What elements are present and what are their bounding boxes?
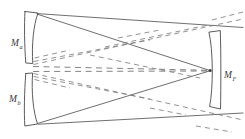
dashed-ray-short-upper-left [35, 50, 71, 58]
mirror-b-label-group: M b [8, 94, 21, 106]
mirror-a-label-subscript: a [20, 43, 23, 50]
dashed-ray-stub-lower-mid [150, 108, 186, 115]
focus-point [209, 69, 212, 72]
dashed-ray-paths [33, 12, 243, 132]
diagram-svg: M a M b M F [0, 0, 245, 139]
dashed-ray-fan-down-2 [34, 77, 150, 100]
solid-ray-lower-outer [38, 113, 243, 124]
mirror-a-body [25, 12, 38, 64]
solid-ray-lower-diagonal [38, 71, 210, 124]
dashed-ray-axis-lower [33, 71, 209, 72]
mirror-a-group [25, 12, 38, 64]
mirror-b-label-subscript: b [18, 99, 21, 106]
dashed-ray-fan-up-2 [34, 40, 150, 62]
mirror-a-label-base: M [10, 38, 20, 48]
dashed-ray-tail-bottom-right [196, 126, 232, 132]
mirror-a-label-group: M a [10, 38, 23, 50]
optical-diagram-canvas: M a M b M F [0, 0, 245, 139]
mirror-f-label-group: M F [223, 70, 237, 82]
mirror-b-body [24, 73, 37, 126]
mirror-f-label-base: M [223, 70, 233, 80]
mirror-b-group [24, 73, 37, 126]
dashed-ray-tail-top-right [212, 12, 243, 20]
mirror-f-label-subscript: F [232, 75, 237, 82]
mirror-b-label-base: M [8, 94, 18, 104]
dashed-ray-cross-ascending [105, 25, 208, 47]
solid-ray-upper-diagonal [37, 14, 210, 70]
dashed-ray-cross-descending [90, 55, 200, 78]
dashed-ray-short-lower-left [35, 80, 71, 89]
dashed-ray-axis [33, 67, 210, 71]
